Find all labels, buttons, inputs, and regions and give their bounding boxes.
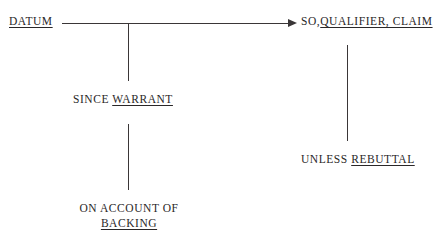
node-backing-line1: ON ACCOUNT OF (64, 201, 194, 216)
node-datum: DATUM (9, 14, 53, 29)
node-warrant-prefix: SINCE (73, 93, 112, 105)
node-warrant: SINCE WARRANT (73, 92, 173, 107)
node-datum-label: DATUM (9, 15, 53, 27)
claim-to-rebuttal-connector (347, 45, 348, 141)
node-warrant-label: WARRANT (112, 93, 173, 105)
node-rebuttal: UNLESS REBUTTAL (301, 152, 415, 167)
arrow-head-icon (288, 19, 297, 27)
node-claim: SO,QUALIFIER, CLAIM (301, 14, 433, 29)
node-rebuttal-prefix: UNLESS (301, 153, 351, 165)
toulmin-diagram: DATUM SO,QUALIFIER, CLAIM SINCE WARRANT … (0, 0, 443, 247)
datum-to-claim-arrow-line (62, 23, 292, 24)
node-rebuttal-label: REBUTTAL (351, 153, 415, 165)
node-claim-prefix: SO, (301, 15, 320, 27)
node-backing-label: BACKING (101, 217, 157, 229)
node-backing: ON ACCOUNT OF BACKING (64, 201, 194, 231)
node-claim-label: QUALIFIER, CLAIM (320, 15, 432, 27)
warrant-to-backing-connector (128, 124, 129, 190)
node-backing-line2: BACKING (64, 216, 194, 231)
datum-to-warrant-connector (128, 23, 129, 81)
